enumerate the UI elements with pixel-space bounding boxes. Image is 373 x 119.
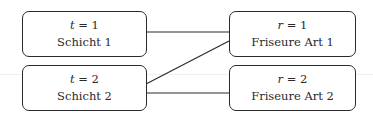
value: = 2 bbox=[283, 72, 307, 86]
node-shift-2: t = 2 Schicht 2 bbox=[22, 65, 147, 111]
value: = 2 bbox=[75, 72, 99, 86]
node-equation: t = 1 bbox=[70, 17, 99, 34]
value: = 1 bbox=[75, 18, 99, 32]
node-label: Friseure Art 2 bbox=[251, 88, 334, 105]
node-equation: r = 2 bbox=[278, 71, 308, 88]
node-shift-1: t = 1 Schicht 1 bbox=[22, 11, 147, 57]
edge-t2-r1 bbox=[146, 41, 229, 84]
value: = 1 bbox=[283, 18, 307, 32]
node-hairdresser-type-1: r = 1 Friseure Art 1 bbox=[229, 11, 356, 57]
node-label: Schicht 1 bbox=[57, 34, 112, 51]
node-equation: t = 2 bbox=[70, 71, 99, 88]
node-label: Friseure Art 1 bbox=[251, 34, 334, 51]
node-label: Schicht 2 bbox=[57, 88, 112, 105]
node-equation: r = 1 bbox=[278, 17, 308, 34]
node-hairdresser-type-2: r = 2 Friseure Art 2 bbox=[229, 65, 356, 111]
